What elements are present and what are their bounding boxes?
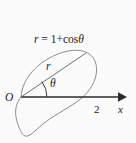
equation-theta-symbol: θ (78, 33, 84, 45)
polar-cardioid-figure: r = 1+cosθ O r θ 2 x (0, 0, 136, 143)
angle-arc (42, 82, 47, 98)
tick-label-two: 2 (94, 103, 100, 115)
radius-ray (21, 53, 86, 97)
origin-label: O (5, 91, 14, 103)
equation-label: r = 1+cosθ (34, 33, 84, 45)
radius-label: r (46, 60, 51, 72)
equation-expression: 1+cos (51, 33, 79, 45)
cardioid-curve (16, 50, 97, 136)
x-axis-arrowhead-icon (118, 92, 127, 101)
x-axis-label: x (117, 103, 123, 115)
equation-equals: = (38, 33, 50, 45)
angle-label: θ (50, 77, 56, 89)
